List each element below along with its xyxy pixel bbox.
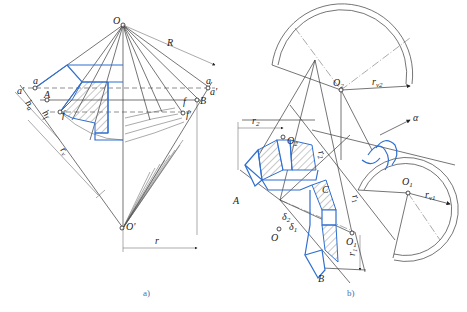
label-rz2: r2 bbox=[314, 149, 329, 161]
point-O1-prime bbox=[406, 191, 410, 195]
label-B: B bbox=[200, 95, 206, 106]
ha-hf-dimension bbox=[15, 92, 60, 140]
point-O2 bbox=[281, 135, 285, 139]
label-O1: O1 bbox=[346, 236, 357, 249]
label-A: A bbox=[43, 89, 51, 100]
label-C: C bbox=[322, 184, 329, 195]
label-O: O bbox=[113, 15, 120, 26]
point-O-prime bbox=[120, 226, 124, 230]
label-f-prime-right: f' bbox=[186, 109, 192, 120]
label-f-right: f bbox=[183, 96, 187, 107]
label-a-left: a bbox=[33, 75, 38, 86]
gear-section bbox=[35, 65, 123, 140]
label-r1: r1 bbox=[346, 249, 359, 256]
caption-b: b) bbox=[347, 288, 355, 298]
point-B bbox=[195, 98, 199, 102]
cone-lines bbox=[35, 25, 210, 230]
point-O1 bbox=[350, 231, 354, 235]
label-O: O bbox=[271, 232, 278, 243]
label-a-prime-left: a' bbox=[17, 85, 25, 96]
alpha-indicator bbox=[380, 120, 410, 135]
virtual-gear-2-outer bbox=[272, 4, 413, 84]
bevel-gear-pair bbox=[240, 60, 366, 283]
axis-line-rv bbox=[290, 105, 395, 240]
label-B: B bbox=[318, 273, 324, 284]
label-R: R bbox=[166, 37, 173, 48]
point-a-left bbox=[33, 86, 37, 90]
bevel-gear-diagram: O R a a' A f a a' B f f' O' r rv ha hf a… bbox=[0, 0, 467, 312]
virtual-gear-2-inner bbox=[278, 10, 407, 84]
label-a-right: a bbox=[206, 75, 211, 86]
virtual-gear-1-outer bbox=[358, 157, 458, 261]
label-O1-prime: O1 bbox=[402, 176, 413, 189]
point-f-right bbox=[181, 111, 185, 115]
caption-a: a) bbox=[143, 288, 150, 298]
label-r2: r2 bbox=[252, 115, 260, 128]
label-O-prime: O' bbox=[126, 221, 136, 232]
point-O bbox=[277, 227, 281, 231]
tooth-fan bbox=[123, 140, 183, 228]
label-a-prime-right: a' bbox=[210, 86, 218, 97]
label-rv2: rv2 bbox=[372, 76, 383, 89]
label-alpha: α bbox=[413, 112, 419, 123]
panel-a: O R a a' A f a a' B f f' O' r rv ha hf a… bbox=[15, 15, 218, 298]
label-r: r bbox=[155, 235, 159, 246]
label-rv1: rv1 bbox=[425, 189, 436, 202]
label-ha: ha bbox=[22, 97, 38, 112]
panel-b: O2 rv2 α r2 O2 r2 C r1 O1 rv1 A δ2 δ1 O … bbox=[232, 4, 458, 298]
label-A: A bbox=[232, 195, 240, 206]
label-rv: rv bbox=[57, 144, 72, 158]
label-delta1: δ1 bbox=[289, 221, 297, 234]
label-rz1: r1 bbox=[348, 193, 363, 205]
